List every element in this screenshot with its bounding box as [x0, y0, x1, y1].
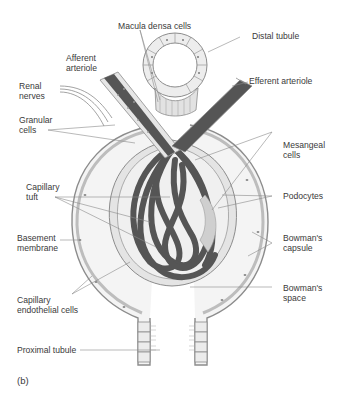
- label-granular-cells: Granular cells: [19, 115, 52, 135]
- label-macula-densa-cells: Macula densa cells: [118, 21, 191, 31]
- label-podocytes: Podocytes: [283, 191, 323, 201]
- label-renal-nerves: Renal nerves: [19, 81, 45, 101]
- label-bowmans-space: Bowman's space: [283, 283, 322, 303]
- label-capillary-tuft: Capillary tuft: [26, 182, 59, 202]
- label-efferent-arteriole: Efferent arteriole: [249, 76, 312, 86]
- label-mesangeal-cells: Mesangeal cells: [283, 140, 325, 160]
- label-distal-tubule: Distal tubule: [252, 31, 299, 41]
- renal-nerves: [60, 86, 112, 126]
- label-afferent-arteriole: Afferent arteriole: [66, 53, 97, 73]
- label-proximal-tubule: Proximal tubule: [17, 345, 76, 355]
- label-capillary-endothelial-cells: Capillary endothelial cells: [17, 295, 78, 315]
- panel-label: (b): [17, 376, 29, 386]
- label-bowmans-capsule: Bowman's capsule: [283, 233, 322, 253]
- proximal-tubule: [138, 322, 207, 362]
- label-basement-membrane: Basement membrane: [17, 233, 58, 253]
